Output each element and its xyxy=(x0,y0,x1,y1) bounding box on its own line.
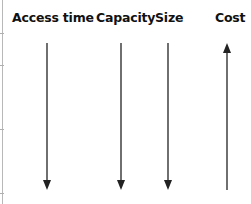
arrow-up-icon-cost xyxy=(223,43,231,53)
arrow-down-icon-access-time xyxy=(43,180,51,190)
arrow-down-icon-capacity xyxy=(117,180,125,190)
arrow-down-icon-size xyxy=(164,180,172,190)
arrows-layer xyxy=(0,0,251,204)
